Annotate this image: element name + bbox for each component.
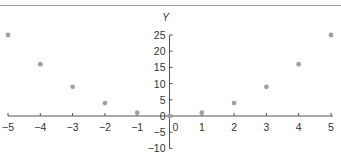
- x-tick-label: 1: [199, 121, 205, 133]
- x-tick-label: 2: [231, 121, 237, 133]
- data-point: [167, 114, 172, 119]
- y-tick-label: −5: [154, 126, 166, 138]
- x-tick-label: 3: [263, 121, 269, 133]
- x-tick-label: 5: [328, 121, 334, 133]
- y-tick-label: 5: [160, 94, 166, 106]
- data-point: [264, 84, 269, 89]
- data-point: [296, 62, 301, 67]
- data-point: [6, 33, 11, 38]
- x-tick-label: −5: [2, 121, 14, 133]
- data-point: [135, 110, 140, 115]
- x-tick-label: −3: [67, 121, 79, 133]
- x-tick-label: −2: [99, 121, 111, 133]
- data-point: [199, 110, 204, 115]
- x-tick-label: 0: [173, 121, 179, 133]
- y-axis-title: Y: [162, 12, 170, 23]
- scatter-chart: −5−4−3−2−1012345−10−50510152025Y: [0, 0, 341, 156]
- data-point: [103, 101, 108, 106]
- y-tick-label: 15: [154, 61, 166, 73]
- data-point: [70, 84, 75, 89]
- y-tick-label: 25: [154, 29, 166, 41]
- y-tick-label: 20: [154, 45, 166, 57]
- x-tick-label: −4: [34, 121, 46, 133]
- data-point: [38, 62, 43, 67]
- data-point: [329, 33, 334, 38]
- y-tick-label: 10: [154, 78, 166, 90]
- y-tick-label: −10: [148, 142, 166, 154]
- x-tick-label: −1: [131, 121, 143, 133]
- x-tick-label: 4: [296, 121, 302, 133]
- data-point: [232, 101, 237, 106]
- y-tick-label: 0: [160, 110, 166, 122]
